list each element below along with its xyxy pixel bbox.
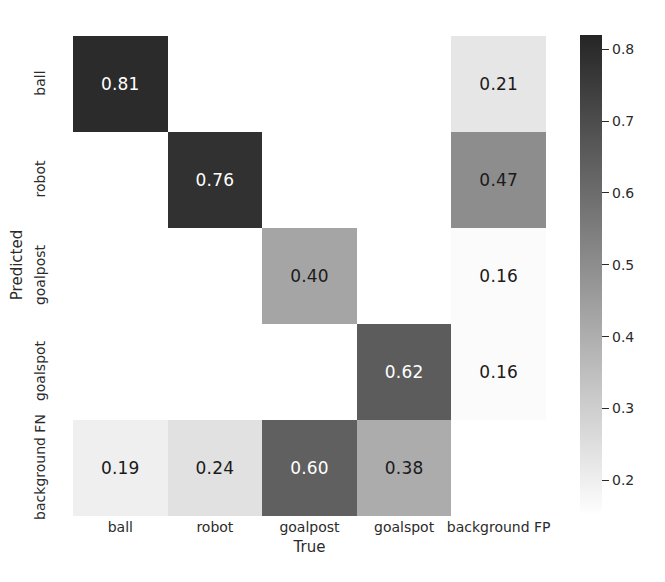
heatmap-cell-value: 0.38 bbox=[385, 460, 424, 477]
colorbar-tick-label: 0.6 bbox=[612, 185, 634, 201]
colorbar: 0.20.30.40.50.60.70.8 bbox=[580, 35, 660, 516]
heatmap-grid: 0.810.210.760.470.400.160.620.160.190.24… bbox=[73, 36, 546, 516]
heatmap-cell-value: 0.60 bbox=[290, 460, 329, 477]
heatmap-cell: 0.21 bbox=[451, 36, 546, 132]
heatmap-cell-value: 0.16 bbox=[479, 364, 518, 381]
y-axis-title: Predicted bbox=[8, 200, 26, 330]
colorbar-tick-mark bbox=[602, 480, 609, 481]
y-tick-background-fn: background FN bbox=[32, 407, 48, 527]
colorbar-tick-label: 0.7 bbox=[612, 113, 634, 129]
heatmap-cell: 0.47 bbox=[451, 132, 546, 228]
heatmap-cell-value: 0.81 bbox=[101, 76, 140, 93]
colorbar-tick-mark bbox=[602, 49, 609, 50]
heatmap-cell-value: 0.24 bbox=[196, 460, 235, 477]
heatmap-cell: 0.76 bbox=[168, 132, 263, 228]
x-axis-title: True bbox=[73, 538, 546, 556]
colorbar-tick-0-2: 0.2 bbox=[602, 473, 634, 487]
colorbar-tick-0-8: 0.8 bbox=[602, 42, 634, 56]
x-tick-background-fp: background FP bbox=[429, 519, 569, 535]
colorbar-tick-mark bbox=[602, 264, 609, 265]
colorbar-tick-label: 0.8 bbox=[612, 41, 634, 57]
colorbar-tick-mark bbox=[602, 121, 609, 122]
colorbar-tick-label: 0.2 bbox=[612, 472, 634, 488]
colorbar-tick-mark bbox=[602, 336, 609, 337]
heatmap-cell-value: 0.19 bbox=[101, 460, 140, 477]
heatmap-cell: 0.62 bbox=[357, 324, 452, 420]
colorbar-tick-mark bbox=[602, 408, 609, 409]
heatmap-cell: 0.16 bbox=[451, 324, 546, 420]
colorbar-tick-0-5: 0.5 bbox=[602, 258, 634, 272]
colorbar-tick-0-4: 0.4 bbox=[602, 330, 634, 344]
colorbar-tick-label: 0.5 bbox=[612, 257, 634, 273]
heatmap-cell-value: 0.40 bbox=[290, 268, 329, 285]
colorbar-tick-mark bbox=[602, 192, 609, 193]
colorbar-tick-label: 0.3 bbox=[612, 400, 634, 416]
heatmap-cell: 0.24 bbox=[168, 420, 263, 516]
heatmap-cell: 0.40 bbox=[262, 228, 357, 324]
colorbar-gradient bbox=[580, 35, 602, 516]
confusion-matrix-figure: 0.810.210.760.470.400.160.620.160.190.24… bbox=[0, 0, 665, 582]
heatmap-cell: 0.16 bbox=[451, 228, 546, 324]
colorbar-tick-0-6: 0.6 bbox=[602, 186, 634, 200]
heatmap-cell-value: 0.21 bbox=[479, 76, 518, 93]
heatmap-cell: 0.60 bbox=[262, 420, 357, 516]
heatmap-cell: 0.19 bbox=[73, 420, 168, 516]
heatmap-cell: 0.81 bbox=[73, 36, 168, 132]
colorbar-tick-label: 0.4 bbox=[612, 329, 634, 345]
heatmap-cell-value: 0.47 bbox=[479, 172, 518, 189]
colorbar-tick-0-3: 0.3 bbox=[602, 401, 634, 415]
heatmap-cell-value: 0.62 bbox=[385, 364, 424, 381]
heatmap-cell: 0.38 bbox=[357, 420, 452, 516]
colorbar-tick-0-7: 0.7 bbox=[602, 114, 634, 128]
heatmap-cell-value: 0.16 bbox=[479, 268, 518, 285]
heatmap-cell-value: 0.76 bbox=[196, 172, 235, 189]
